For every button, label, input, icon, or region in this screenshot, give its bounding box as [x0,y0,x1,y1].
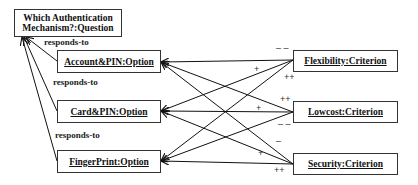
sign-security-card: + [258,148,263,158]
responds-to-label-3: responds-to [55,130,100,140]
option-label: FingerPrint:Option [69,157,149,167]
criterion-label: Security:Criterion [308,159,383,169]
criterion-label: Lowcost:Criterion [308,107,383,117]
criterion-node-lowcost[interactable]: Lowcost:Criterion [293,101,398,123]
question-label-line2: Mechanism?:Question [22,23,113,33]
option-label: Card&PIN:Option [70,107,147,117]
option-label: Account&PIN:Option [64,57,154,67]
option-node-account-pin[interactable]: Account&PIN:Option [57,50,161,73]
sign-flexibility-card: + [254,64,259,74]
responds-to-label-2: responds-to [53,77,98,87]
sign-security-account: – [276,136,281,146]
edge-security-fingerprint [161,161,293,164]
option-node-card-pin[interactable]: Card&PIN:Option [57,100,161,123]
criterion-label: Flexibility:Criterion [304,56,386,66]
question-node[interactable]: Which Authentication Mechanism?:Question [14,9,122,37]
criterion-node-security[interactable]: Security:Criterion [293,153,398,175]
responds-to-label-1: responds-to [44,37,89,47]
sign-security-fingerprint: ++ [274,165,285,175]
edge-flexibility-fingerprint [161,60,293,161]
sign-lowcost-account: ++ [280,94,291,104]
sign-lowcost-card: + [256,103,261,113]
option-node-fingerprint[interactable]: FingerPrint:Option [57,150,161,173]
sign-flexibility-fingerprint: ++ [284,72,295,82]
sign-lowcost-fingerprint: – – [278,119,291,129]
edge-lowcost-card [161,111,293,112]
edge-flexibility-account [161,60,293,62]
edge-flexibility-card [161,60,293,111]
edge-lowcost-account [161,62,293,112]
sign-flexibility-account: – – [276,43,289,53]
question-label-line1: Which Authentication [22,13,113,23]
criterion-node-flexibility[interactable]: Flexibility:Criterion [293,50,398,72]
edge-security-account [161,62,293,164]
